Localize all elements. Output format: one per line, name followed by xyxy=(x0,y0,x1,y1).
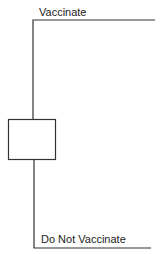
branch-vaccinate-line xyxy=(33,20,155,119)
branch-label-do-not-vaccinate: Do Not Vaccinate xyxy=(41,234,126,245)
branch-label-vaccinate: Vaccinate xyxy=(39,7,87,18)
decision-node xyxy=(9,120,56,160)
decision-tree-diagram xyxy=(0,0,166,254)
